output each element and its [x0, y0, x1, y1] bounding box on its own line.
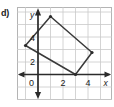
vertex-point-left	[24, 44, 27, 47]
y-axis-name-label: y	[29, 10, 35, 20]
part-label: d)	[1, 8, 9, 18]
vertex-point-right	[90, 51, 93, 54]
y-tick-label-2: 2	[30, 57, 35, 67]
y-tick-label-4: 4	[30, 33, 35, 43]
figure-container: d)	[0, 0, 114, 107]
graph-panel: 0 2 4 2 4 x y	[17, 7, 112, 100]
axis-label-origin: 0	[29, 78, 34, 88]
x-tick-label-2: 2	[60, 78, 65, 88]
coordinate-graph: 0 2 4 2 4 x y	[17, 7, 112, 100]
vertex-point-top	[49, 15, 52, 18]
x-tick-label-4: 4	[85, 78, 90, 88]
x-axis-name-label: x	[102, 78, 108, 88]
